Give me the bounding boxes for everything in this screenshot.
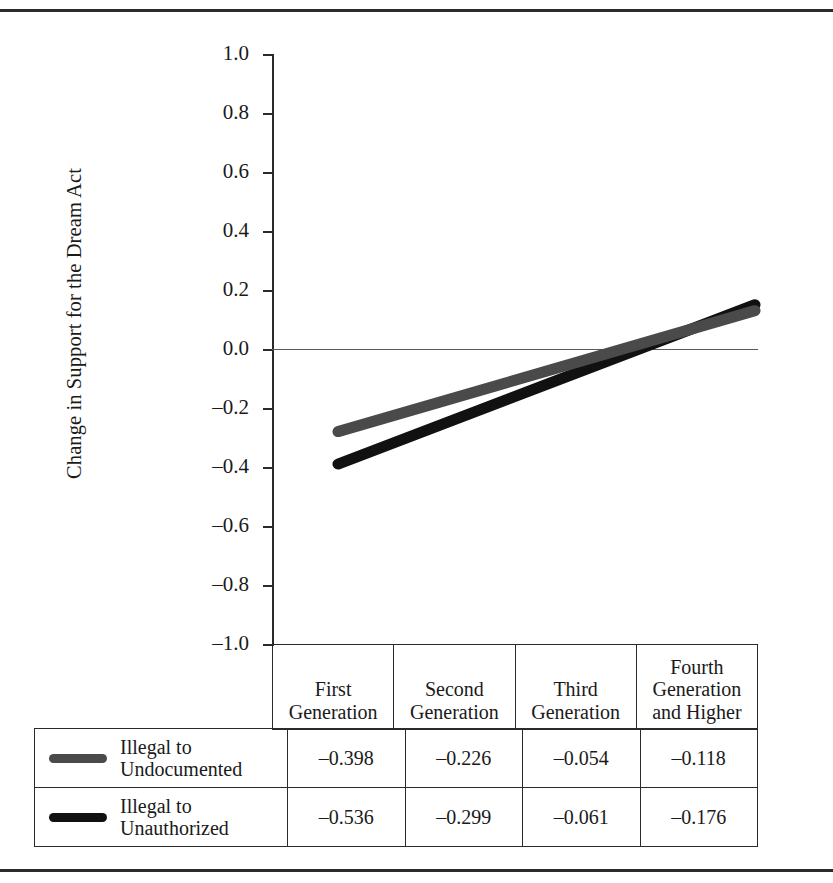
y-tick-label: 1.0	[179, 41, 249, 66]
y-tick-label: 0.2	[179, 277, 249, 302]
series-lines-svg	[272, 54, 758, 644]
value-third-generation: –0.054	[523, 729, 641, 788]
table-row: Illegal to Unauthorized –0.536 –0.299 –0…	[35, 788, 758, 847]
header-line: Third	[518, 678, 634, 700]
column-header-third-generation: Third Generation	[515, 645, 636, 730]
data-value-table: Illegal to Undocumented –0.398 –0.226 –0…	[34, 728, 758, 847]
table-header-row: First Generation Second Generation Third…	[273, 645, 758, 730]
legend-label-line: Illegal to	[120, 736, 192, 758]
y-tick-label: 0.0	[179, 336, 249, 361]
y-tick-label: –0.2	[179, 395, 249, 420]
legend-swatch-line-icon	[49, 813, 107, 822]
value-second-generation: –0.299	[405, 788, 523, 847]
header-line: Second	[396, 678, 512, 700]
y-tick-label: –0.8	[179, 572, 249, 597]
legend-cell-illegal-to-unauthorized: Illegal to Unauthorized	[35, 788, 288, 847]
figure-bottom-rule	[0, 869, 833, 872]
header-line: Fourth	[639, 656, 755, 678]
y-tick-label: –0.4	[179, 454, 249, 479]
value-fourth-generation-and-higher: –0.176	[640, 788, 758, 847]
header-line: Generation	[396, 701, 512, 723]
column-header-first-generation: First Generation	[273, 645, 394, 730]
y-axis-title: Change in Support for the Dream Act	[63, 64, 86, 584]
value-first-generation: –0.536	[288, 788, 406, 847]
header-line: First	[275, 678, 391, 700]
generation-header-table: First Generation Second Generation Third…	[272, 644, 758, 730]
y-tick-label: 0.4	[179, 218, 249, 243]
y-tick-label: –1.0	[179, 631, 249, 656]
legend-cell-illegal-to-undocumented: Illegal to Undocumented	[35, 729, 288, 788]
header-line: Generation	[518, 701, 634, 723]
value-third-generation: –0.061	[523, 788, 641, 847]
y-tick-label: 0.8	[179, 100, 249, 125]
figure-container: Change in Support for the Dream Act 1.0 …	[0, 12, 833, 869]
legend-label-line: Unauthorized	[120, 817, 229, 839]
legend-swatch-line-icon	[49, 754, 107, 763]
y-tick-label: –0.6	[179, 513, 249, 538]
legend-label: Illegal to Undocumented	[120, 736, 242, 781]
header-line: Generation	[639, 678, 755, 700]
header-line: Generation	[275, 701, 391, 723]
column-header-fourth-generation-and-higher: Fourth Generation and Higher	[636, 645, 757, 730]
value-first-generation: –0.398	[288, 729, 406, 788]
value-fourth-generation-and-higher: –0.118	[640, 729, 758, 788]
legend-label-line: Illegal to	[120, 795, 192, 817]
column-header-second-generation: Second Generation	[394, 645, 515, 730]
legend-label: Illegal to Unauthorized	[120, 795, 229, 840]
header-line: and Higher	[639, 701, 755, 723]
plot-area: 1.0 0.8 0.6 0.4 0.2 0.0 –0.2 –0.4 –0.6 –…	[272, 54, 758, 644]
table-row: Illegal to Undocumented –0.398 –0.226 –0…	[35, 729, 758, 788]
y-tick-label: 0.6	[179, 159, 249, 184]
value-second-generation: –0.226	[405, 729, 523, 788]
series-line-illegal-to-undocumented	[338, 311, 755, 432]
legend-label-line: Undocumented	[120, 758, 242, 780]
